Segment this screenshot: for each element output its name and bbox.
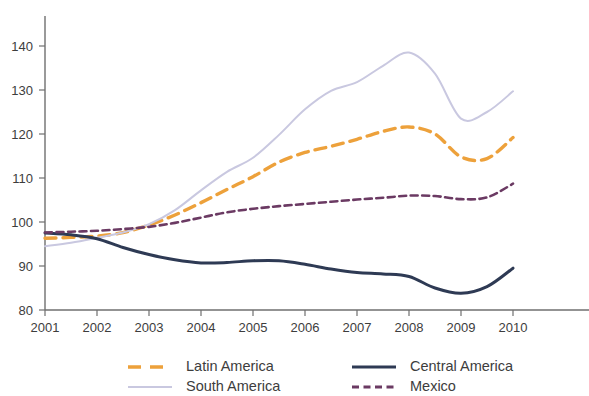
chart-figure: 8090100110120130140 20012002200320042005… [0,0,589,396]
y-tick-label: 130 [11,83,33,98]
legend-label: Central America [410,358,514,374]
x-tick-label: 2010 [499,320,528,335]
data-series-group [45,52,513,293]
x-tick-label: 2003 [135,320,164,335]
chart-legend: Latin AmericaCentral AmericaSouth Americ… [128,358,514,394]
series-line-central-america [45,233,513,293]
x-tick-label: 2007 [343,320,372,335]
legend-item-south-america[interactable]: South America [128,378,281,394]
legend-label: Latin America [186,358,275,374]
x-tick-label: 2001 [31,320,60,335]
y-tick-label: 120 [11,127,33,142]
series-line-south-america [45,52,513,246]
series-line-mexico [45,184,513,233]
line-chart: 8090100110120130140 20012002200320042005… [0,0,589,396]
x-tick-label: 2002 [83,320,112,335]
x-tick-label: 2005 [239,320,268,335]
x-tick-label: 2008 [395,320,424,335]
x-axis-ticks: 2001200220032004200520062007200820092010 [31,310,528,335]
legend-item-central-america[interactable]: Central America [352,358,514,374]
legend-item-latin-america[interactable]: Latin America [128,358,275,374]
y-tick-label: 140 [11,39,33,54]
y-tick-label: 80 [19,303,33,318]
series-line-latin-america [45,127,513,238]
legend-item-mexico[interactable]: Mexico [352,378,456,394]
legend-label: South America [186,378,281,394]
legend-label: Mexico [410,378,456,394]
y-tick-label: 90 [19,259,33,274]
x-tick-label: 2004 [187,320,216,335]
y-tick-label: 100 [11,215,33,230]
x-tick-label: 2009 [447,320,476,335]
y-tick-label: 110 [12,171,33,186]
x-tick-label: 2006 [291,320,320,335]
y-axis-ticks: 8090100110120130140 [11,39,45,318]
